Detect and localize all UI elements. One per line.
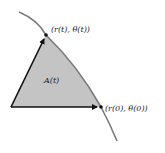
point-0-label: (r(0), θ(0)) [105, 104, 148, 113]
point-t-label: (r(t), θ(t)) [51, 25, 90, 34]
point-0-dot [99, 105, 103, 109]
region-label: A(t) [43, 76, 59, 85]
polar-area-diagram: (r(t), θ(t)) (r(0), θ(0)) A(t) [0, 0, 165, 153]
point-t-dot [44, 33, 48, 37]
